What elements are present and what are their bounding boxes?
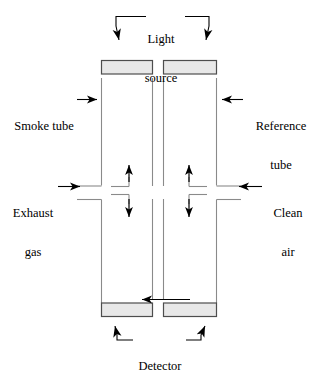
exhaust-gas-label-line2: gas [9,246,57,259]
detector-label: Detector [136,333,184,374]
light-source-label-line1: Light [138,33,184,46]
exhaust-gas-port [77,177,129,204]
detector-label-line1: Detector [136,360,184,373]
exhaust-gas-label-line1: Exhaust [9,207,57,220]
reference-tube-label-line1: Reference [248,120,314,133]
smoke-tube-label-line1: Smoke tube [12,120,76,133]
light-source-label-line2: source [138,72,184,85]
clean-air-label-line1: Clean [266,207,310,220]
reference-tube-label-line2: tube [248,159,314,172]
light-source-label: Light source [138,6,184,112]
clean-air-label: Clean air [266,180,310,286]
exhaust-gas-label: Exhaust gas [9,180,57,286]
smoke-tube-label: Smoke tube [12,93,76,159]
flow-arrows [129,165,189,217]
clean-air-label-line2: air [266,246,310,259]
detector-box-right [164,303,217,317]
clean-air-port [189,177,241,204]
detector-box-left [102,303,153,317]
